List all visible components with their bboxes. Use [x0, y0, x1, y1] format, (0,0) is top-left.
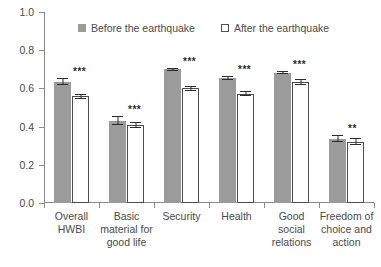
error-bar-cap-top: [295, 79, 306, 80]
y-axis-tick-label: 0.8: [19, 44, 34, 56]
category-label-line: choice and: [319, 223, 374, 236]
bar-group: ***: [54, 12, 89, 203]
error-bar-cap-bottom: [240, 95, 251, 96]
significance-annotation: ***: [183, 57, 196, 67]
y-axis-tick: [39, 127, 44, 128]
error-bar-cap-bottom: [185, 90, 196, 91]
bar-after-earthquake: [182, 88, 199, 203]
category-label-line: Overall: [44, 210, 99, 223]
x-axis-tick: [374, 203, 375, 208]
x-axis-category-label: Security: [154, 210, 209, 223]
y-axis-tick-label: 0.6: [19, 82, 34, 94]
error-bar-cap-bottom: [222, 79, 233, 80]
bar-group: ***: [274, 12, 309, 203]
category-label-line: Freedom of: [319, 210, 374, 223]
category-label-line: HWBI: [44, 223, 99, 236]
y-axis-tick-label: 0.2: [19, 159, 34, 171]
error-bar: [167, 68, 178, 71]
error-bar-cap-bottom: [277, 73, 288, 74]
category-label-line: good life: [99, 236, 154, 249]
error-bar: [240, 91, 251, 96]
x-axis-category-label: OverallHWBI: [44, 210, 99, 236]
bar-group: ***: [109, 12, 144, 203]
bar-before-earthquake: [274, 73, 291, 203]
significance-annotation: ***: [128, 105, 141, 115]
error-bar: [332, 135, 343, 142]
y-axis-tick: [39, 50, 44, 51]
bar-before-earthquake: [329, 139, 346, 203]
x-axis-category-label: Good socialrelations: [264, 210, 319, 249]
error-bar-cap-top: [240, 91, 251, 92]
x-axis-category-label: Health: [209, 210, 264, 223]
x-axis-tick: [264, 203, 265, 208]
bar-after-earthquake: [127, 125, 144, 203]
y-axis-tick-label: 1.0: [19, 6, 34, 18]
error-bar-cap-bottom: [75, 98, 86, 99]
error-bar: [222, 76, 233, 81]
category-label-line: action: [319, 236, 374, 249]
category-label-line: relations: [264, 236, 319, 249]
error-bar-cap-bottom: [112, 124, 123, 125]
error-bar-cap-bottom: [295, 84, 306, 85]
y-axis-tick: [39, 165, 44, 166]
significance-annotation: ***: [73, 67, 86, 77]
error-bar-cap-top: [57, 78, 68, 79]
error-bar-cap-bottom: [57, 84, 68, 85]
bar-chart: Before the earthquake After the earthqua…: [0, 0, 381, 267]
error-bar-cap-top: [222, 76, 233, 77]
x-axis-tick: [319, 203, 320, 208]
error-bar: [295, 79, 306, 84]
significance-annotation: ***: [293, 60, 306, 70]
error-bar-cap-top: [130, 122, 141, 123]
error-bar-cap-top: [185, 86, 196, 87]
error-bar-cap-top: [350, 138, 361, 139]
significance-annotation: ***: [238, 65, 251, 75]
bar-before-earthquake: [54, 82, 71, 203]
error-bar-cap-top: [75, 94, 86, 95]
error-bar: [75, 94, 86, 99]
x-axis-tick: [209, 203, 210, 208]
category-label-line: Good social: [264, 210, 319, 236]
bar-after-earthquake: [72, 96, 89, 203]
category-label-line: Health: [209, 210, 264, 223]
y-axis-tick-label: 0.0: [19, 197, 34, 209]
bar-group: ***: [219, 12, 254, 203]
y-axis-line: [44, 12, 45, 203]
bar-after-earthquake: [292, 82, 309, 203]
error-bar-cap-bottom: [130, 127, 141, 128]
error-bar-cap-bottom: [350, 144, 361, 145]
error-bar: [112, 116, 123, 124]
x-axis-category-label: Basicmaterial forgood life: [99, 210, 154, 249]
error-bar: [57, 78, 68, 85]
significance-annotation: **: [348, 124, 357, 134]
bar-group: ***: [164, 12, 199, 203]
error-bar-cap-top: [112, 116, 123, 117]
y-axis-tick: [39, 12, 44, 13]
x-axis-tick: [154, 203, 155, 208]
error-bar-cap-top: [332, 135, 343, 136]
bar-before-earthquake: [164, 69, 181, 203]
y-axis-tick-label: 0.4: [19, 121, 34, 133]
error-bar-cap-top: [277, 71, 288, 72]
bar-before-earthquake: [109, 121, 126, 204]
error-bar-cap-top: [167, 68, 178, 69]
x-axis-tick: [44, 203, 45, 208]
category-label-line: material for: [99, 223, 154, 236]
error-bar: [130, 122, 141, 128]
category-label-line: Security: [154, 210, 209, 223]
bar-group: **: [329, 12, 364, 203]
bar-before-earthquake: [219, 78, 236, 203]
error-bar-cap-bottom: [332, 141, 343, 142]
error-bar-cap-bottom: [167, 70, 178, 71]
error-bar: [277, 71, 288, 75]
bar-after-earthquake: [347, 142, 364, 204]
x-axis-tick: [99, 203, 100, 208]
error-bar: [185, 86, 196, 91]
plot-area: 0.00.20.40.60.81.0*****************: [44, 12, 374, 203]
category-label-line: Basic: [99, 210, 154, 223]
bar-after-earthquake: [237, 94, 254, 203]
x-axis-category-labels: OverallHWBIBasicmaterial forgood lifeSec…: [44, 210, 374, 267]
x-axis-category-label: Freedom ofchoice andaction: [319, 210, 374, 249]
y-axis-tick: [39, 88, 44, 89]
error-bar: [350, 138, 361, 145]
